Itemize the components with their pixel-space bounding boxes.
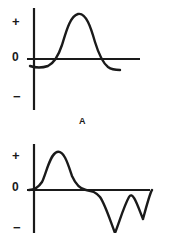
chart-b-label-zero: 0 <box>12 181 19 193</box>
chart-b-label-negative: − <box>13 221 21 233</box>
chart-b-curve <box>29 152 152 233</box>
chart-a-caption: A <box>79 117 86 126</box>
chart-a-svg <box>0 0 181 112</box>
chart-a-label-zero: 0 <box>12 51 19 63</box>
chart-a-label-negative: − <box>13 90 21 103</box>
chart-a-label-positive: + <box>12 15 20 28</box>
chart-b-label-positive: + <box>12 149 20 162</box>
chart-panel-a <box>0 0 181 112</box>
waveform-figure: + 0 − A + 0 − <box>0 0 181 233</box>
chart-a-curve <box>30 14 120 70</box>
chart-panel-b <box>0 140 181 233</box>
chart-b-svg <box>0 140 181 233</box>
